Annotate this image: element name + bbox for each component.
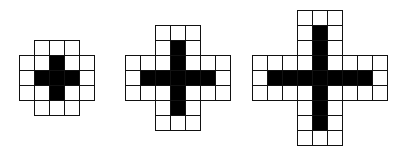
empty-cell [49, 100, 65, 116]
filled-cell [140, 70, 156, 86]
empty-cell [327, 115, 343, 131]
empty-cell [372, 55, 388, 71]
empty-cell [49, 40, 65, 56]
filled-cell [312, 55, 328, 71]
empty-cell [327, 40, 343, 56]
empty-cell [185, 85, 201, 101]
empty-cell [357, 55, 373, 71]
empty-cell [342, 55, 358, 71]
empty-cell [140, 85, 156, 101]
empty-cell [327, 10, 343, 26]
empty-cell [267, 85, 283, 101]
empty-cell [267, 55, 283, 71]
empty-cell [64, 85, 80, 101]
empty-cell [327, 100, 343, 116]
filled-cell [312, 40, 328, 56]
empty-cell [282, 55, 298, 71]
filled-cell [49, 85, 65, 101]
empty-cell [297, 25, 313, 41]
empty-cell [64, 100, 80, 116]
empty-cell [140, 55, 156, 71]
empty-cell [297, 40, 313, 56]
empty-cell [200, 55, 216, 71]
empty-cell [155, 85, 171, 101]
filled-cell [170, 55, 186, 71]
empty-cell [79, 85, 95, 101]
empty-cell [297, 100, 313, 116]
filled-cell [282, 70, 298, 86]
empty-cell [79, 70, 95, 86]
filled-cell [49, 70, 65, 86]
empty-cell [19, 85, 35, 101]
empty-cell [125, 70, 141, 86]
empty-cell [200, 85, 216, 101]
empty-cell [185, 40, 201, 56]
empty-cell [252, 85, 268, 101]
empty-cell [19, 55, 35, 71]
empty-cell [252, 70, 268, 86]
empty-cell [64, 40, 80, 56]
filled-cell [170, 70, 186, 86]
empty-cell [185, 115, 201, 131]
filled-cell [170, 40, 186, 56]
empty-cell [327, 85, 343, 101]
empty-cell [125, 85, 141, 101]
filled-cell [64, 70, 80, 86]
empty-cell [155, 100, 171, 116]
filled-cell [342, 70, 358, 86]
filled-cell [312, 25, 328, 41]
filled-cell [267, 70, 283, 86]
empty-cell [312, 10, 328, 26]
empty-cell [327, 130, 343, 146]
empty-cell [19, 70, 35, 86]
empty-cell [312, 130, 328, 146]
empty-cell [215, 70, 231, 86]
empty-cell [155, 115, 171, 131]
empty-cell [34, 40, 50, 56]
filled-cell [312, 100, 328, 116]
empty-cell [155, 55, 171, 71]
empty-cell [170, 25, 186, 41]
empty-cell [252, 55, 268, 71]
filled-cell [155, 70, 171, 86]
empty-cell [327, 55, 343, 71]
filled-cell [327, 70, 343, 86]
empty-cell [170, 115, 186, 131]
empty-cell [372, 70, 388, 86]
empty-cell [297, 85, 313, 101]
empty-cell [327, 25, 343, 41]
empty-cell [185, 55, 201, 71]
empty-cell [215, 55, 231, 71]
empty-cell [297, 10, 313, 26]
empty-cell [34, 85, 50, 101]
empty-cell [357, 85, 373, 101]
empty-cell [282, 85, 298, 101]
empty-cell [79, 55, 95, 71]
filled-cell [170, 85, 186, 101]
filled-cell [185, 70, 201, 86]
empty-cell [185, 100, 201, 116]
empty-cell [34, 100, 50, 116]
empty-cell [297, 115, 313, 131]
empty-cell [215, 85, 231, 101]
filled-cell [357, 70, 373, 86]
filled-cell [49, 55, 65, 71]
empty-cell [342, 85, 358, 101]
filled-cell [200, 70, 216, 86]
filled-cell [312, 85, 328, 101]
empty-cell [64, 55, 80, 71]
empty-cell [125, 55, 141, 71]
empty-cell [372, 85, 388, 101]
empty-cell [155, 40, 171, 56]
filled-cell [312, 115, 328, 131]
filled-cell [312, 70, 328, 86]
filled-cell [297, 70, 313, 86]
empty-cell [297, 130, 313, 146]
filled-cell [34, 70, 50, 86]
empty-cell [297, 55, 313, 71]
filled-cell [170, 100, 186, 116]
empty-cell [34, 55, 50, 71]
empty-cell [155, 25, 171, 41]
empty-cell [185, 25, 201, 41]
